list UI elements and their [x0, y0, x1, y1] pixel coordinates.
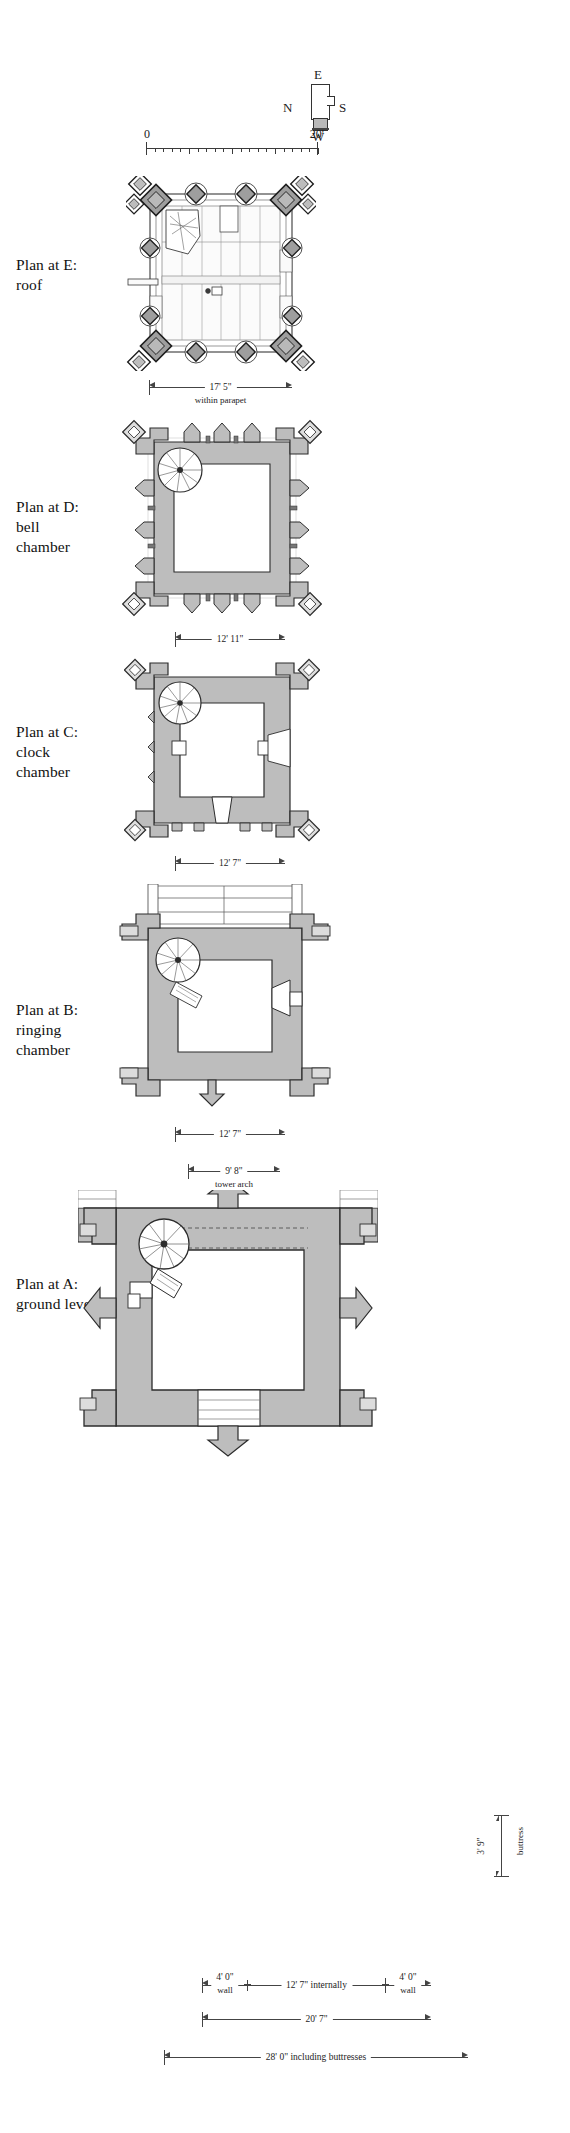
drawing-sheet: N E S W 0 20' Plan at E: roof: [0, 0, 570, 2133]
plan-drawing-d-bell-chamber: [122, 418, 322, 618]
dimension-a-overall: 20' 7": [202, 2010, 431, 2030]
dimension-a-with-buttresses-value: 28' 0" including buttresses: [261, 2047, 371, 2067]
dimension-a-internal-value: 12' 7" internally: [281, 1975, 352, 1995]
plan-label-b: Plan at B: ringing chamber: [16, 1000, 78, 1059]
dimension-c-width: 12' 7": [175, 854, 285, 874]
dimension-c-width-value: 12' 7": [214, 853, 246, 873]
dimension-a-overall-value: 20' 7": [300, 2009, 332, 2029]
dimension-a-tower-arch-note: tower arch: [215, 1179, 253, 1189]
dimension-a-tower-arch-value: 9' 8": [220, 1161, 247, 1181]
plan-label-c: Plan at C: clock chamber: [16, 722, 78, 781]
compass-south-label: S: [339, 101, 346, 114]
scale-ticks: [146, 148, 318, 154]
dimension-b-width: 12' 7": [175, 1125, 285, 1145]
dimension-b-width-value: 12' 7": [214, 1124, 246, 1144]
dimension-e-width-note: within parapet: [195, 395, 247, 405]
plan-drawing-e-roof: [126, 176, 316, 371]
dimension-d-width: 12' 11": [175, 630, 285, 650]
dimension-a-with-buttresses: 28' 0" including buttresses: [164, 2048, 468, 2068]
dimension-a-buttress-depth-note-wrap: buttress: [528, 1796, 546, 1896]
dimension-a-wall-right-note: wall: [400, 1985, 416, 1995]
dimension-a-wall-right-value: 4' 0": [394, 1967, 421, 1987]
plan-drawing-a-ground-level: [78, 1190, 378, 1460]
plan-drawing-b-ringing-chamber: [112, 884, 337, 1116]
plan-label-d: Plan at D: bell chamber: [16, 497, 79, 556]
dimension-a-wall-right: 4' 0" wall: [385, 1976, 431, 1996]
compass-chancel-icon: [327, 96, 335, 106]
dimension-d-width-value: 12' 11": [212, 629, 249, 649]
dimension-e-width-value: 17' 5": [204, 377, 236, 397]
dimension-a-buttress-depth-value: 3' 9": [477, 1837, 487, 1854]
dimension-a-buttress-depth: 3' 9": [492, 1815, 512, 1877]
compass-east-label: E: [314, 68, 322, 81]
dimension-a-wall-left-value: 4' 0": [211, 1967, 238, 1987]
scale-bar: 0 20': [146, 130, 318, 164]
dimension-a-buttress-depth-note: buttress: [515, 1827, 525, 1855]
dimension-e-width: 17' 5" within parapet: [149, 378, 292, 398]
dimension-a-internal: 12' 7" internally: [248, 1976, 385, 1996]
plan-label-e: Plan at E: roof: [16, 255, 77, 295]
compass-north-label: N: [283, 101, 292, 114]
dimension-a-tower-arch: 9' 8" tower arch: [188, 1162, 280, 1182]
dimension-a-wall-left-note: wall: [217, 1985, 233, 1995]
scale-max-label: 20': [310, 128, 324, 140]
scale-zero-label: 0: [144, 128, 150, 140]
dimension-a-wall-left: 4' 0" wall: [202, 1976, 248, 1996]
plan-drawing-c-clock-chamber: [124, 655, 320, 845]
